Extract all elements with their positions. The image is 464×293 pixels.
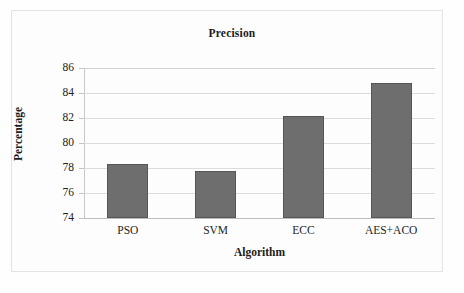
gridline [84, 68, 435, 69]
y-axis-title: Percentage [12, 92, 24, 176]
plot-area [84, 68, 435, 218]
y-axis-tick-mark [79, 168, 84, 169]
bar [371, 83, 412, 218]
x-axis-tick-label: SVM [172, 224, 260, 236]
chart-figure: Precision Percentage 86848280787674 PSOS… [0, 0, 464, 293]
y-axis-tick-label: 80 [48, 137, 74, 149]
y-axis-tick-label: 84 [48, 87, 74, 99]
y-axis-tick-mark [79, 93, 84, 94]
y-axis-tick-mark [79, 193, 84, 194]
y-axis-tick-label: 74 [48, 212, 74, 224]
y-axis-tick-label: 86 [48, 62, 74, 74]
y-axis-tick-label: 76 [48, 187, 74, 199]
y-axis-tick-label: 82 [48, 112, 74, 124]
y-axis-tick-label: 78 [48, 162, 74, 174]
x-axis-title: Algorithm [84, 246, 435, 258]
gridline [84, 218, 435, 219]
x-axis-tick-label: ECC [260, 224, 348, 236]
y-axis-tick-mark [79, 118, 84, 119]
bar [107, 164, 148, 218]
y-axis-tick-labels: 86848280787674 [46, 0, 74, 293]
y-axis-tick-mark [79, 143, 84, 144]
bar [195, 171, 236, 219]
x-axis-tick-label: AES+ACO [347, 224, 435, 236]
x-axis-tick-label: PSO [84, 224, 172, 236]
y-axis-tick-mark [79, 218, 84, 219]
y-axis-tick-mark [79, 68, 84, 69]
bar [283, 116, 324, 219]
